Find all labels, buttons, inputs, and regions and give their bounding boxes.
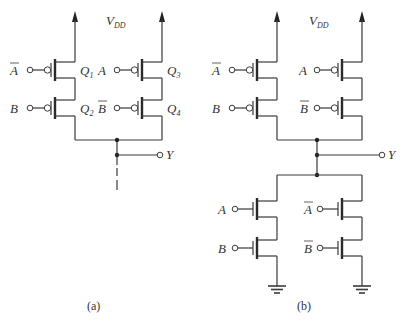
- vdd-label-a: VDD: [106, 13, 126, 30]
- panel-a: VDD Y A B A B Q1 Q2 Q3 Q: [9, 11, 180, 313]
- input-label-a: A: [298, 63, 307, 78]
- nmos-a-bar: [317, 198, 362, 220]
- transistor-q1: [27, 59, 75, 81]
- ground-icon: [353, 276, 371, 293]
- input-label-b: B: [218, 241, 226, 256]
- input-label-a-bar: A: [211, 63, 220, 78]
- nmos-a: [232, 198, 277, 220]
- pmos-a: [314, 59, 362, 81]
- pmos-b: [229, 97, 277, 119]
- transistor-q2: [27, 97, 75, 119]
- input-label-b-bar: B: [98, 101, 106, 116]
- input-label-b-bar: B: [304, 241, 312, 256]
- input-label-b: B: [10, 101, 18, 116]
- pmos-a-bar: [229, 59, 277, 81]
- label-q4: Q4: [167, 101, 180, 118]
- label-q3: Q3: [167, 63, 180, 80]
- label-q1: Q1: [80, 63, 93, 80]
- nmos-b: [232, 237, 277, 259]
- output-label-a: Y: [166, 147, 175, 162]
- caption-b: (b): [297, 299, 311, 313]
- output-terminal: [379, 152, 385, 158]
- circuit-diagram: VDD Y A B A B Q1 Q2 Q3 Q: [0, 0, 406, 325]
- input-label-a: A: [97, 63, 106, 78]
- input-label-b: B: [212, 101, 220, 116]
- ground-icon: [268, 276, 286, 293]
- panel-b: VDD Y: [211, 11, 397, 313]
- pmos-b-bar: [314, 97, 362, 119]
- caption-a: (a): [87, 299, 100, 313]
- input-label-a-bar: A: [9, 63, 18, 78]
- vdd-label-b: VDD: [309, 13, 329, 30]
- nmos-b-bar: [317, 237, 362, 259]
- output-terminal: [157, 152, 163, 158]
- transistor-q4: [114, 97, 162, 119]
- transistor-q3: [114, 59, 162, 81]
- label-q2: Q2: [80, 101, 93, 118]
- input-label-a: A: [217, 202, 226, 217]
- output-label-b: Y: [388, 147, 397, 162]
- input-label-a-bar: A: [303, 202, 312, 217]
- input-label-b-bar: B: [300, 101, 308, 116]
